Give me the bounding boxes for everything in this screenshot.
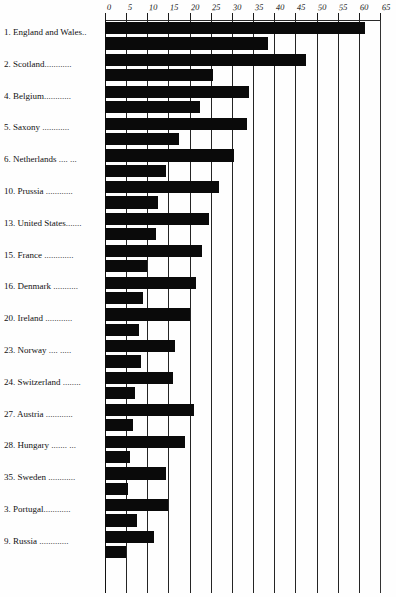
axis-tick-mark — [295, 13, 296, 20]
row-country-name: United States....... — [18, 218, 82, 228]
row-country-name: Switzerland ........ — [18, 377, 81, 387]
bar-lower — [105, 483, 128, 495]
row-label: 3. Portugal............ — [4, 504, 102, 515]
row-label: 16. Denmark ........... — [4, 281, 102, 292]
row-label: 23. Norway .... ..... — [4, 345, 102, 356]
row-label: 27. Austria ............ — [4, 409, 102, 420]
axis-tick-mark — [359, 13, 360, 20]
axis-tick-mark — [338, 13, 339, 20]
bar-upper — [105, 531, 154, 543]
bar-lower — [105, 324, 139, 336]
row-country-name: Prussia ............ — [18, 186, 73, 196]
chart-row: 9. Russia ............. — [0, 529, 396, 561]
bar-lower — [105, 355, 141, 367]
bar-lower — [105, 419, 133, 431]
bar-lower — [105, 165, 166, 177]
chart-row: 28. Hungary ....... ... — [0, 433, 396, 465]
axis-tick-label: 35 — [254, 2, 262, 12]
axis-tick-label: 60 — [360, 2, 368, 12]
chart-row: 2. Scotland............ — [0, 52, 396, 84]
row-label: 6. Netherlands .... ... — [4, 154, 102, 165]
row-country-name: Netherlands .... ... — [13, 154, 77, 164]
chart-row: 4. Belgium............ — [0, 84, 396, 116]
row-rank-number: 20. — [4, 313, 15, 323]
row-country-name: Denmark ........... — [18, 281, 79, 291]
axis-tick-label: 45 — [297, 2, 305, 12]
axis-tick-label: 40 — [276, 2, 284, 12]
row-country-name: Russia ............. — [13, 536, 69, 546]
bar-upper — [105, 54, 306, 66]
row-country-name: Norway .... ..... — [18, 345, 72, 355]
bar-upper — [105, 372, 173, 384]
bar-lower — [105, 101, 200, 113]
row-rank-number: 16. — [4, 281, 15, 291]
axis-tick-label: 5 — [127, 2, 131, 12]
row-label: 2. Scotland............ — [4, 59, 102, 70]
row-rank-number: 4. — [4, 91, 11, 101]
row-rank-number: 13. — [4, 218, 15, 228]
bar-upper — [105, 245, 202, 257]
bar-lower — [105, 37, 268, 49]
bar-upper — [105, 340, 175, 352]
row-label: 20. Ireland ............ — [4, 313, 102, 324]
row-rank-number: 3. — [4, 504, 11, 514]
chart-row: 3. Portugal............ — [0, 497, 396, 529]
chart-row: 10. Prussia ............ — [0, 179, 396, 211]
chart-row: 16. Denmark ........... — [0, 274, 396, 306]
chart-row: 27. Austria ............ — [0, 402, 396, 434]
chart-row: 24. Switzerland ........ — [0, 370, 396, 402]
chart-row: 35. Sweden ............ — [0, 465, 396, 497]
row-country-name: Portugal............ — [13, 504, 71, 514]
row-label: 13. United States....... — [4, 218, 102, 229]
row-rank-number: 23. — [4, 345, 15, 355]
chart-row: 1. England and Wales.. — [0, 20, 396, 52]
axis-tick-mark — [380, 13, 381, 20]
row-country-name: England and Wales.. — [13, 27, 87, 37]
axis-tick-label: 15 — [170, 2, 178, 12]
row-label: 28. Hungary ....... ... — [4, 440, 102, 451]
row-label: 24. Switzerland ........ — [4, 377, 102, 388]
plot-area: 1. England and Wales..2. Scotland.......… — [0, 20, 396, 593]
chart-row: 20. Ireland ............ — [0, 306, 396, 338]
row-country-name: Sweden ............ — [18, 472, 76, 482]
axis-tick-mark — [126, 13, 127, 20]
row-rank-number: 27. — [4, 409, 15, 419]
row-country-name: Scotland............ — [13, 59, 72, 69]
bar-lower — [105, 196, 158, 208]
axis-tick-mark — [253, 13, 254, 20]
row-country-name: Saxony ............ — [13, 122, 69, 132]
bar-upper — [105, 499, 168, 511]
row-label: 10. Prussia ............ — [4, 186, 102, 197]
bar-upper — [105, 467, 166, 479]
bar-rows: 1. England and Wales..2. Scotland.......… — [0, 20, 396, 593]
chart-row: 6. Netherlands .... ... — [0, 147, 396, 179]
row-label: 35. Sweden ............ — [4, 472, 102, 483]
axis-tick-label: 20 — [191, 2, 199, 12]
row-rank-number: 35. — [4, 472, 15, 482]
bar-upper — [105, 277, 196, 289]
row-country-name: Belgium............ — [13, 91, 71, 101]
chart-row: 13. United States....... — [0, 211, 396, 243]
chart-row: 15. France ............. — [0, 243, 396, 275]
axis-tick-mark — [105, 13, 106, 20]
row-rank-number: 2. — [4, 59, 11, 69]
chart-row: 5. Saxony ............ — [0, 115, 396, 147]
row-rank-number: 5. — [4, 122, 11, 132]
bar-lower — [105, 292, 143, 304]
row-label: 4. Belgium............ — [4, 91, 102, 102]
axis-tick-mark — [147, 13, 148, 20]
row-rank-number: 10. — [4, 186, 15, 196]
row-rank-number: 1. — [4, 27, 11, 37]
bar-upper — [105, 86, 249, 98]
bar-lower — [105, 451, 130, 463]
axis-tick-mark — [274, 13, 275, 20]
bar-upper — [105, 213, 209, 225]
row-country-name: France ............. — [18, 250, 74, 260]
axis-tick-label: 10 — [149, 2, 157, 12]
bar-lower — [105, 69, 213, 81]
axis-tick-mark — [168, 13, 169, 20]
bar-upper — [105, 149, 234, 161]
axis-tick-label: 55 — [339, 2, 347, 12]
axis-tick-mark — [317, 13, 318, 20]
bar-upper — [105, 308, 190, 320]
